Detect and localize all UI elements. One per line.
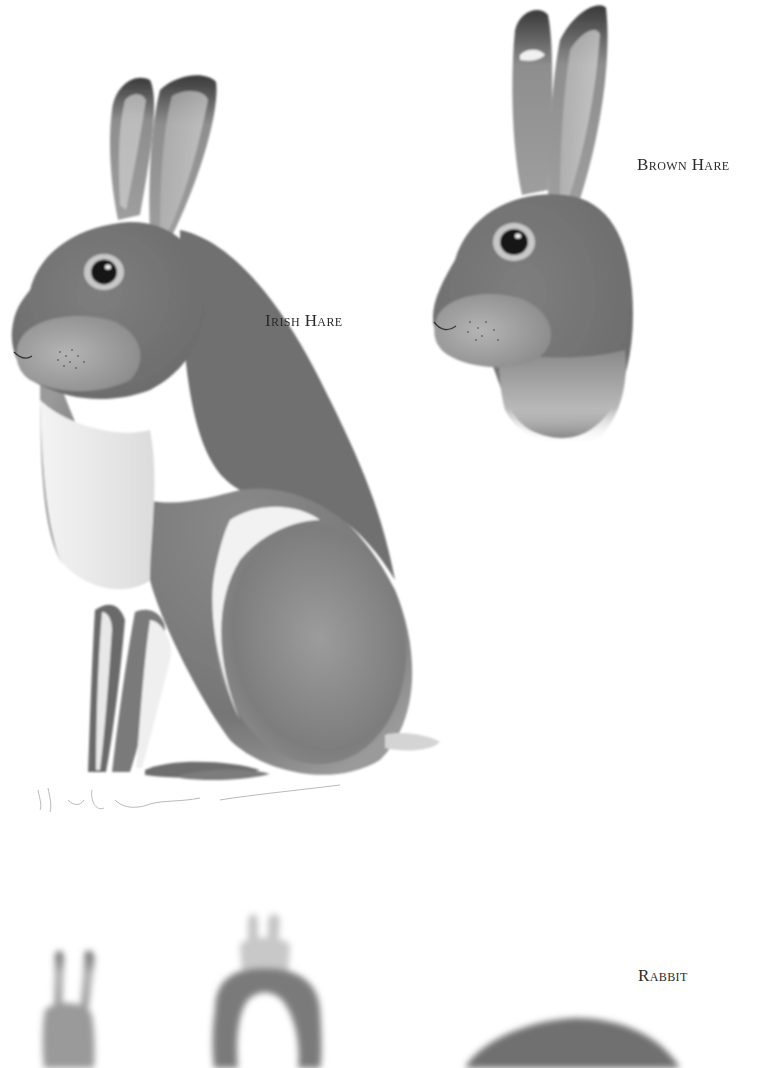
brown-hare — [433, 5, 633, 446]
label-irish-hare: Irish Hare — [265, 311, 343, 331]
rabbit-group — [43, 914, 680, 1068]
illustration-plate: Brown Hare Irish Hare Rabbit — [0, 0, 762, 1068]
artist-signature — [38, 785, 340, 812]
label-rabbit: Rabbit — [638, 966, 688, 986]
irish-hare — [12, 75, 440, 780]
label-brown-hare: Brown Hare — [637, 155, 730, 175]
